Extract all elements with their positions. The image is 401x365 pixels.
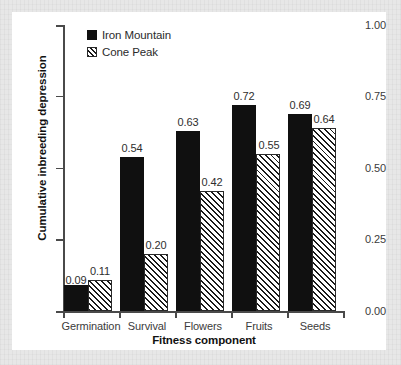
bar-iron-mountain-flowers[interactable] <box>176 131 200 311</box>
bar-value-cone-peak-fruits: 0.55 <box>251 139 287 151</box>
x-tick-mark <box>231 312 233 318</box>
x-tick-mark <box>343 312 345 318</box>
y-tick-label-025: 0.25 <box>342 233 386 245</box>
bar-cone-peak-fruits[interactable] <box>256 154 280 311</box>
bar-value-iron-mountain-seeds: 0.69 <box>282 99 318 111</box>
bar-value-cone-peak-seeds: 0.64 <box>306 113 342 125</box>
y-tick-mark <box>56 239 63 241</box>
y-tick-label-050: 0.50 <box>342 162 386 174</box>
legend-label-iron-mountain: Iron Mountain <box>102 29 171 41</box>
bar-value-cone-peak-survival: 0.20 <box>138 239 174 251</box>
y-tick-label-000: 0.00 <box>342 305 386 317</box>
legend-swatch-hatched-icon <box>87 47 97 57</box>
y-tick-label-100: 1.00 <box>342 19 386 31</box>
y-axis-title: Cumulative inbreeding depression <box>36 28 48 268</box>
bar-value-iron-mountain-fruits: 0.72 <box>226 90 262 102</box>
bar-cone-peak-flowers[interactable] <box>200 191 224 311</box>
bar-iron-mountain-germination[interactable] <box>64 285 88 311</box>
bar-value-cone-peak-germination: 0.11 <box>82 265 118 277</box>
figure-panel: Cumulative inbreeding depression 0.00 0.… <box>12 12 386 350</box>
x-tick-mark <box>175 312 177 318</box>
x-tick-mark <box>287 312 289 318</box>
bar-cone-peak-survival[interactable] <box>144 254 168 311</box>
bar-iron-mountain-fruits[interactable] <box>232 105 256 311</box>
legend-swatch-solid-icon <box>87 30 97 40</box>
bar-value-cone-peak-flowers: 0.42 <box>194 176 230 188</box>
y-tick-mark <box>56 25 63 27</box>
y-tick-label-075: 0.75 <box>342 90 386 102</box>
x-axis-line <box>63 311 345 313</box>
bar-value-iron-mountain-flowers: 0.63 <box>170 116 206 128</box>
y-tick-mark <box>56 311 63 313</box>
legend: Iron Mountain Cone Peak <box>87 26 171 60</box>
x-tick-mark <box>119 312 121 318</box>
x-axis-title: Fitness component <box>63 334 345 346</box>
plot-area: 0.09 0.11 0.54 0.20 0.63 0.42 0.72 0.55 … <box>63 25 337 311</box>
x-category-label-seeds: Seeds <box>277 320 353 332</box>
bar-value-iron-mountain-survival: 0.54 <box>114 142 150 154</box>
y-tick-mark <box>56 168 63 170</box>
x-tick-mark <box>63 312 65 318</box>
legend-label-cone-peak: Cone Peak <box>102 46 158 58</box>
y-tick-mark <box>56 96 63 98</box>
bar-cone-peak-seeds[interactable] <box>312 128 336 311</box>
bar-iron-mountain-seeds[interactable] <box>288 114 312 311</box>
bar-iron-mountain-survival[interactable] <box>120 157 144 311</box>
legend-item-cone-peak[interactable]: Cone Peak <box>87 43 171 60</box>
legend-item-iron-mountain[interactable]: Iron Mountain <box>87 26 171 43</box>
